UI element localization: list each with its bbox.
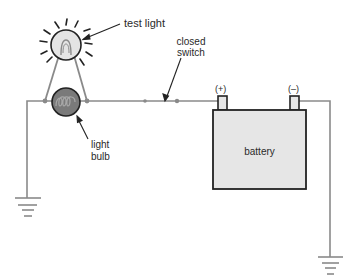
closed-switch-label-line2: switch — [168, 47, 214, 58]
ground-right-icon — [318, 257, 343, 274]
positive-terminal-label: (+) — [215, 84, 226, 95]
positive-terminal-post — [218, 96, 227, 110]
test-light-icon — [51, 30, 81, 60]
light-bulb-icon — [52, 88, 80, 116]
closed-switch-label-line1: closed — [168, 36, 214, 47]
ground-left-icon — [15, 198, 41, 216]
light-bulb-label-line1: light — [91, 139, 109, 150]
leader-lines — [77, 24, 181, 139]
battery-label: battery — [213, 146, 306, 157]
negative-terminal-label: (–) — [288, 84, 299, 95]
test-light-label: test light — [124, 18, 165, 29]
negative-terminal-post — [290, 96, 299, 110]
light-bulb-label-line2: bulb — [91, 151, 110, 162]
battery-icon — [213, 96, 306, 189]
